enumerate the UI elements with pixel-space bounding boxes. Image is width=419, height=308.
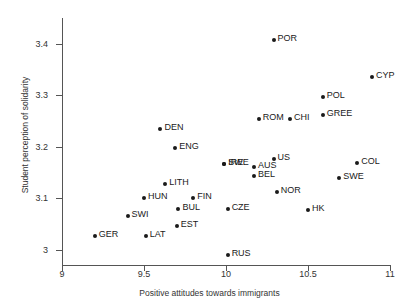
- data-point-marker: [275, 190, 279, 194]
- data-point-label: BEL: [258, 170, 275, 179]
- data-point-marker: [226, 207, 230, 211]
- data-point-label: IRE: [228, 158, 243, 167]
- data-point-marker: [222, 162, 226, 166]
- data-point-label: NOR: [281, 186, 301, 195]
- y-tick-mark: [56, 147, 62, 148]
- x-tick-label: 10.5: [288, 270, 328, 279]
- data-point-marker: [173, 146, 177, 150]
- x-tick-label: 9.5: [124, 270, 164, 279]
- x-axis-title: Positive attitudes towards immigrants: [0, 288, 419, 298]
- x-tick-label: 11: [370, 270, 410, 279]
- y-tick-mark: [56, 95, 62, 96]
- data-point-label: GREE: [327, 109, 353, 118]
- data-point-label: COL: [361, 157, 380, 166]
- data-point-marker: [142, 196, 146, 200]
- data-point-marker: [191, 196, 195, 200]
- data-point-label: POR: [278, 34, 298, 43]
- data-point-label: RUS: [232, 249, 251, 258]
- data-point-marker: [126, 214, 130, 218]
- data-point-label: LITH: [169, 178, 189, 187]
- data-point-label: SWI: [132, 210, 149, 219]
- y-axis-title: Student perception of solidarity: [20, 10, 30, 260]
- data-point-marker: [257, 117, 261, 121]
- data-point-marker: [355, 161, 359, 165]
- scatter-plot: 33.13.23.33.4 99.51010.511 PORCYPPOLGREE…: [0, 0, 419, 308]
- x-tick-label: 10: [206, 270, 246, 279]
- y-tick-mark: [56, 44, 62, 45]
- data-point-marker: [321, 95, 325, 99]
- data-point-marker: [93, 234, 97, 238]
- data-point-label: POL: [327, 91, 345, 100]
- data-point-label: SWE: [343, 172, 364, 181]
- data-point-label: HUN: [148, 192, 168, 201]
- data-point-label: DEN: [164, 123, 183, 132]
- data-point-marker: [370, 75, 374, 79]
- data-point-marker: [176, 207, 180, 211]
- data-point-label: US: [278, 153, 291, 162]
- data-point-marker: [163, 182, 167, 186]
- y-tick-mark: [56, 198, 62, 199]
- data-point-label: ROM: [263, 113, 284, 122]
- data-point-marker: [306, 208, 310, 212]
- y-axis-line: [62, 18, 63, 265]
- y-tick-mark: [56, 250, 62, 251]
- data-point-marker: [144, 234, 148, 238]
- data-point-marker: [175, 224, 179, 228]
- data-point-marker: [321, 113, 325, 117]
- data-point-label: ENG: [179, 142, 199, 151]
- data-point-label: CHI: [294, 113, 310, 122]
- data-point-marker: [252, 165, 256, 169]
- data-point-marker: [226, 253, 230, 257]
- data-point-marker: [272, 38, 276, 42]
- data-point-marker: [158, 127, 162, 131]
- data-point-label: EST: [181, 220, 199, 229]
- data-point-label: HK: [312, 204, 325, 213]
- data-point-label: FIN: [197, 192, 212, 201]
- data-point-marker: [288, 117, 292, 121]
- data-point-label: BUL: [182, 203, 200, 212]
- x-tick-label: 9: [42, 270, 82, 279]
- data-point-label: CZE: [232, 203, 250, 212]
- data-point-marker: [252, 174, 256, 178]
- data-point-label: LAT: [150, 230, 166, 239]
- data-point-marker: [337, 176, 341, 180]
- data-point-label: GER: [99, 230, 119, 239]
- data-point-label: CYP: [376, 71, 395, 80]
